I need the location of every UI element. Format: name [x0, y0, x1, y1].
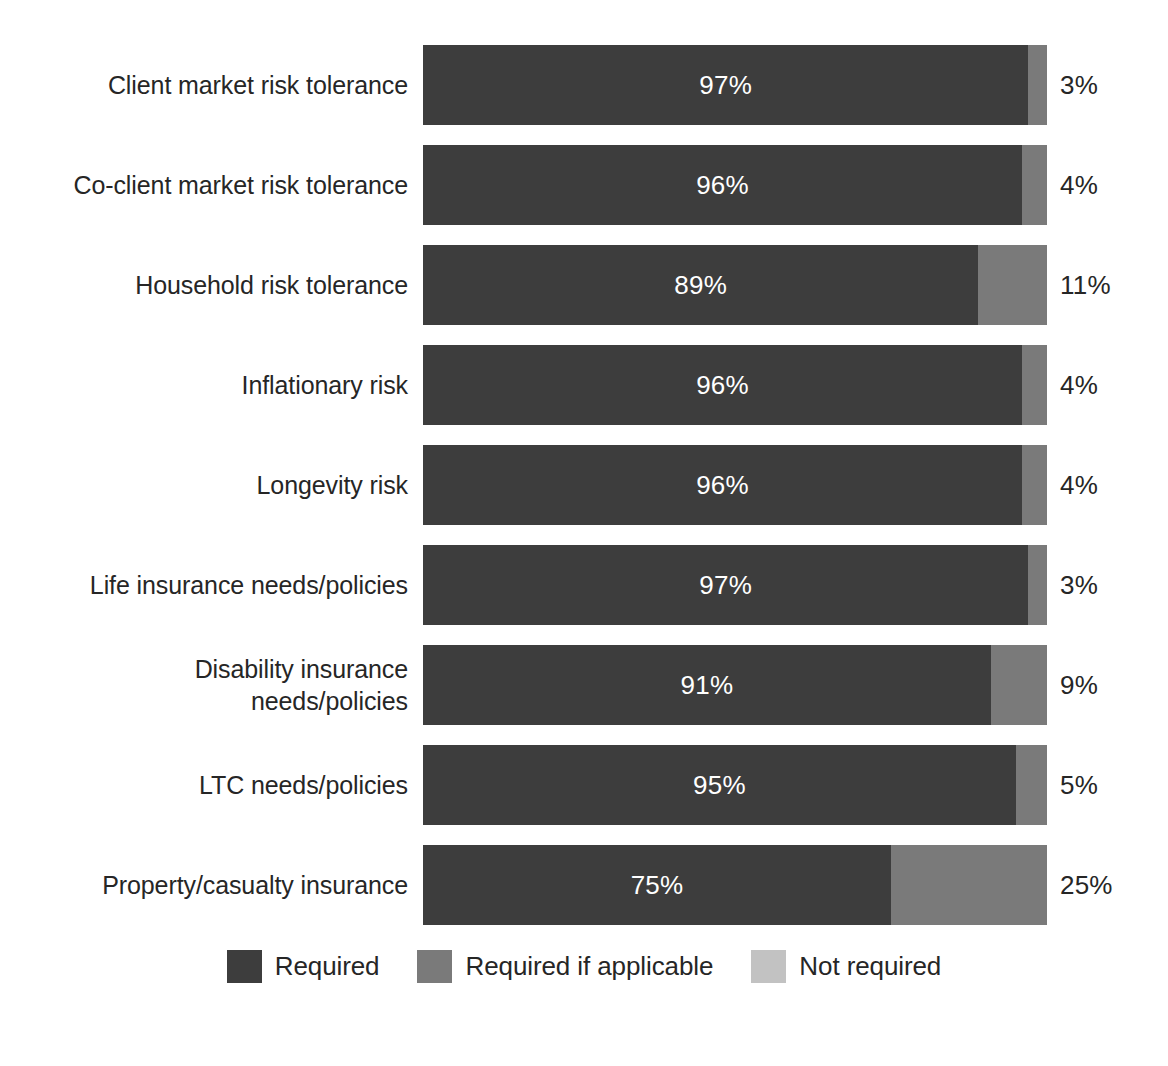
bar-segment-required-if-applicable [991, 645, 1047, 725]
bar-track: 96% [423, 345, 1047, 425]
bar-segment-required: 96% [423, 345, 1022, 425]
bar-segment-required: 96% [423, 445, 1022, 525]
bar-segment-required-if-applicable [1022, 445, 1047, 525]
bar-segment-required-if-applicable [1028, 545, 1047, 625]
category-label: Inflationary risk [10, 335, 408, 435]
bar-row: Inflationary risk96%4% [0, 335, 1168, 435]
bar-segment-required-if-applicable [978, 245, 1047, 325]
outside-value-label: 9% [1060, 635, 1098, 735]
category-label: Co-client market risk tolerance [10, 135, 408, 235]
bar-track: 97% [423, 545, 1047, 625]
bar-track: 91% [423, 645, 1047, 725]
legend-label: Required if applicable [465, 951, 713, 982]
bar-row: LTC needs/policies95%5% [0, 735, 1168, 835]
legend-item-not-required[interactable]: Not required [751, 950, 941, 983]
bar-segment-required: 95% [423, 745, 1016, 825]
segment-value-label: 97% [699, 70, 752, 101]
bar-track: 75% [423, 845, 1047, 925]
bar-segment-required-if-applicable [1022, 345, 1047, 425]
bar-track: 95% [423, 745, 1047, 825]
bar-segment-required: 96% [423, 145, 1022, 225]
outside-value-label: 4% [1060, 335, 1098, 435]
legend-item-required-if-applicable[interactable]: Required if applicable [417, 950, 713, 983]
bar-row: Co-client market risk tolerance96%4% [0, 135, 1168, 235]
segment-value-label: 75% [631, 870, 684, 901]
plot-area: Client market risk tolerance97%3%Co-clie… [0, 0, 1168, 930]
bar-row: Life insurance needs/policies97%3% [0, 535, 1168, 635]
bar-segment-required: 89% [423, 245, 978, 325]
legend-swatch-icon [751, 950, 786, 983]
category-label: Property/casualty insurance [10, 835, 408, 935]
legend-swatch-icon [227, 950, 262, 983]
legend-item-required[interactable]: Required [227, 950, 380, 983]
bar-segment-required: 75% [423, 845, 891, 925]
legend-label: Not required [799, 951, 941, 982]
category-label: Household risk tolerance [10, 235, 408, 335]
bar-row: Property/casualty insurance75%25% [0, 835, 1168, 935]
bar-segment-required-if-applicable [1016, 745, 1047, 825]
outside-value-label: 3% [1060, 535, 1098, 635]
bar-row: Disability insurance needs/policies91%9% [0, 635, 1168, 735]
outside-value-label: 25% [1060, 835, 1113, 935]
bar-track: 97% [423, 45, 1047, 125]
segment-value-label: 96% [696, 470, 749, 501]
bar-segment-required: 97% [423, 545, 1028, 625]
category-label: Longevity risk [10, 435, 408, 535]
segment-value-label: 89% [674, 270, 727, 301]
category-label: Client market risk tolerance [10, 35, 408, 135]
segment-value-label: 91% [681, 670, 734, 701]
segment-value-label: 96% [696, 170, 749, 201]
bar-segment-required: 91% [423, 645, 991, 725]
category-label: Life insurance needs/policies [10, 535, 408, 635]
outside-value-label: 4% [1060, 435, 1098, 535]
bar-segment-required-if-applicable [1028, 45, 1047, 125]
outside-value-label: 4% [1060, 135, 1098, 235]
bar-segment-required: 97% [423, 45, 1028, 125]
segment-value-label: 97% [699, 570, 752, 601]
outside-value-label: 3% [1060, 35, 1098, 135]
stacked-bar-chart: Client market risk tolerance97%3%Co-clie… [0, 0, 1168, 1066]
bar-segment-required-if-applicable [891, 845, 1047, 925]
bar-row: Longevity risk96%4% [0, 435, 1168, 535]
bar-segment-required-if-applicable [1022, 145, 1047, 225]
segment-value-label: 95% [693, 770, 746, 801]
legend-label: Required [275, 951, 380, 982]
bar-track: 89% [423, 245, 1047, 325]
legend-swatch-icon [417, 950, 452, 983]
segment-value-label: 96% [696, 370, 749, 401]
bar-track: 96% [423, 445, 1047, 525]
outside-value-label: 11% [1060, 235, 1111, 335]
category-label: LTC needs/policies [10, 735, 408, 835]
bar-row: Household risk tolerance89%11% [0, 235, 1168, 335]
bar-row: Client market risk tolerance97%3% [0, 35, 1168, 135]
chart-legend: RequiredRequired if applicableNot requir… [0, 936, 1168, 996]
bar-track: 96% [423, 145, 1047, 225]
outside-value-label: 5% [1060, 735, 1098, 835]
category-label: Disability insurance needs/policies [10, 635, 408, 735]
